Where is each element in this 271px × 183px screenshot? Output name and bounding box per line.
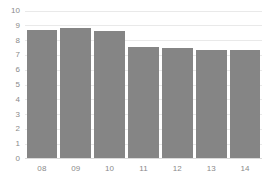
bars-group (25, 11, 262, 159)
bar (60, 28, 91, 158)
x-tick-label: 14 (228, 164, 262, 173)
x-axis: 08091011121314 (25, 164, 262, 178)
plot-area (25, 11, 262, 159)
y-tick-label: 2 (15, 125, 20, 133)
y-tick-label: 3 (15, 111, 20, 119)
y-tick-label: 10 (11, 7, 20, 15)
y-tick-label: 0 (15, 155, 20, 163)
y-tick-label: 7 (15, 51, 20, 59)
bar (128, 47, 159, 158)
x-tick-label: 08 (25, 164, 59, 173)
y-tick-label: 1 (15, 140, 20, 148)
y-axis: 012345678910 (0, 0, 25, 183)
bar (27, 30, 58, 158)
x-tick-label: 11 (127, 164, 161, 173)
x-tick-label: 12 (160, 164, 194, 173)
bar-chart: 012345678910 08091011121314 (0, 0, 271, 183)
bar (196, 50, 227, 158)
axis-baseline (25, 158, 262, 159)
y-tick-label: 5 (15, 81, 20, 89)
y-tick-label: 6 (15, 66, 20, 74)
x-tick-label: 13 (194, 164, 228, 173)
x-tick-label: 09 (59, 164, 93, 173)
bar (162, 48, 193, 158)
y-tick-label: 4 (15, 96, 20, 104)
bar (230, 50, 261, 158)
bar (94, 31, 125, 158)
y-tick-label: 8 (15, 37, 20, 45)
y-tick-label: 9 (15, 22, 20, 30)
x-tick-label: 10 (93, 164, 127, 173)
